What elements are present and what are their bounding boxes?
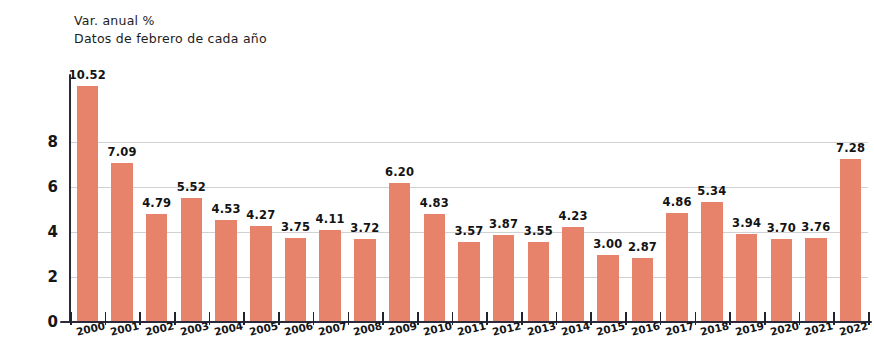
- x-axis-tick: [833, 312, 835, 325]
- x-axis-tick: [729, 312, 731, 325]
- x-axis-tick: [521, 312, 523, 325]
- bar[interactable]: [458, 242, 480, 322]
- y-axis-tick-label: 6: [48, 178, 58, 196]
- x-axis-tick: [105, 312, 107, 325]
- x-axis-tick: [278, 312, 280, 325]
- bar[interactable]: [215, 220, 237, 322]
- bar[interactable]: [805, 238, 827, 322]
- bar-group[interactable]: 6.20: [389, 75, 411, 322]
- x-axis-tick: [660, 312, 662, 325]
- x-axis-tick: [556, 312, 558, 325]
- bar-group[interactable]: 4.83: [424, 75, 446, 322]
- x-axis-tick: [209, 312, 211, 325]
- bar-value-label: 7.28: [836, 141, 865, 155]
- bar[interactable]: [701, 202, 723, 322]
- x-axis-tick: [70, 312, 72, 325]
- x-axis-tick-labels: 2000200120022003200420052006200720082009…: [70, 326, 868, 354]
- bar-value-label: 4.83: [420, 196, 449, 210]
- bar[interactable]: [250, 226, 272, 322]
- bar-value-label: 3.70: [767, 221, 796, 235]
- bar-value-label: 4.79: [142, 196, 171, 210]
- x-axis-tick: [868, 312, 870, 325]
- x-axis-tick: [382, 312, 384, 325]
- bar-value-label: 4.11: [316, 212, 345, 226]
- bar-group[interactable]: 4.86: [666, 75, 688, 322]
- y-axis-tick-label: 4: [48, 223, 58, 241]
- bar-value-label: 3.75: [281, 220, 310, 234]
- chart-title-block: Var. anual % Datos de febrero de cada añ…: [74, 12, 267, 48]
- bar[interactable]: [319, 230, 341, 322]
- x-axis-tick: [417, 312, 419, 325]
- bar-group[interactable]: 2.87: [632, 75, 654, 322]
- bar-value-label: 10.52: [69, 68, 106, 82]
- bar[interactable]: [389, 183, 411, 322]
- bar-value-label: 3.94: [732, 216, 761, 230]
- x-axis-tick: [764, 312, 766, 325]
- bar-value-label: 3.87: [489, 217, 518, 231]
- x-axis-tick: [452, 312, 454, 325]
- y-axis-tick-labels: 02468: [18, 75, 58, 322]
- bar-group[interactable]: 3.76: [805, 75, 827, 322]
- bar-chart: Var. anual % Datos de febrero de cada añ…: [0, 0, 874, 358]
- bar-value-label: 5.52: [177, 180, 206, 194]
- x-axis-tick: [313, 312, 315, 325]
- bar-group[interactable]: 3.72: [354, 75, 376, 322]
- bar-group[interactable]: 7.09: [111, 75, 133, 322]
- bar-value-label: 4.23: [558, 209, 587, 223]
- bar[interactable]: [666, 213, 688, 322]
- chart-title: Var. anual %: [74, 12, 267, 30]
- x-axis-tick: [695, 312, 697, 325]
- bar-value-label: 3.72: [350, 221, 379, 235]
- bar-group[interactable]: 4.53: [215, 75, 237, 322]
- chart-subtitle: Datos de febrero de cada año: [74, 30, 267, 48]
- bars-layer: 10.527.094.795.524.534.273.754.113.726.2…: [70, 75, 868, 322]
- bar-group[interactable]: 7.28: [840, 75, 862, 322]
- x-axis-tick: [348, 312, 350, 325]
- bar[interactable]: [181, 198, 203, 322]
- bar-group[interactable]: 4.11: [319, 75, 341, 322]
- bar[interactable]: [840, 159, 862, 323]
- bar-value-label: 4.86: [663, 195, 692, 209]
- bar[interactable]: [111, 163, 133, 322]
- bar-value-label: 3.57: [454, 224, 483, 238]
- bar-group[interactable]: 3.55: [528, 75, 550, 322]
- bar[interactable]: [424, 214, 446, 323]
- bar-value-label: 5.34: [697, 184, 726, 198]
- bar-group[interactable]: 3.57: [458, 75, 480, 322]
- bar-group[interactable]: 5.52: [181, 75, 203, 322]
- bar[interactable]: [493, 235, 515, 322]
- bar-group[interactable]: 5.34: [701, 75, 723, 322]
- x-axis-tick: [139, 312, 141, 325]
- bar[interactable]: [528, 242, 550, 322]
- bar-value-label: 3.55: [524, 224, 553, 238]
- x-axis-tick: [486, 312, 488, 325]
- bar[interactable]: [285, 238, 307, 322]
- bar-group[interactable]: 3.70: [771, 75, 793, 322]
- bar[interactable]: [354, 239, 376, 323]
- bar-group[interactable]: 10.52: [77, 75, 99, 322]
- bar-group[interactable]: 3.75: [285, 75, 307, 322]
- y-axis-line: [69, 74, 71, 323]
- bar[interactable]: [771, 239, 793, 322]
- y-axis-tick-label: 0: [48, 313, 58, 331]
- plot-area: 10.527.094.795.524.534.273.754.113.726.2…: [70, 75, 868, 322]
- bar-group[interactable]: 4.23: [562, 75, 584, 322]
- bar-group[interactable]: 4.27: [250, 75, 272, 322]
- bar[interactable]: [146, 214, 168, 322]
- bar[interactable]: [77, 86, 99, 322]
- x-axis-tick: [625, 312, 627, 325]
- bar-value-label: 4.53: [212, 202, 241, 216]
- bar[interactable]: [562, 227, 584, 322]
- bar[interactable]: [736, 234, 758, 323]
- bar-group[interactable]: 3.87: [493, 75, 515, 322]
- bar-value-label: 6.20: [385, 165, 414, 179]
- bar-group[interactable]: 3.94: [736, 75, 758, 322]
- bar-group[interactable]: 4.79: [146, 75, 168, 322]
- x-axis-tick: [174, 312, 176, 325]
- bar-value-label: 4.27: [246, 208, 275, 222]
- bar-group[interactable]: 3.00: [597, 75, 619, 322]
- y-axis-tick-label: 2: [48, 268, 58, 286]
- bar-value-label: 7.09: [107, 145, 136, 159]
- x-axis-tick: [799, 312, 801, 325]
- x-axis-tick: [243, 312, 245, 325]
